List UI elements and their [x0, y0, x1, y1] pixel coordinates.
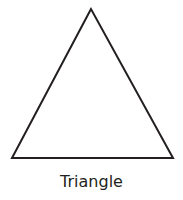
triangle-shape [0, 0, 183, 170]
triangle-outline [12, 9, 173, 158]
shape-label: Triangle [0, 172, 183, 191]
